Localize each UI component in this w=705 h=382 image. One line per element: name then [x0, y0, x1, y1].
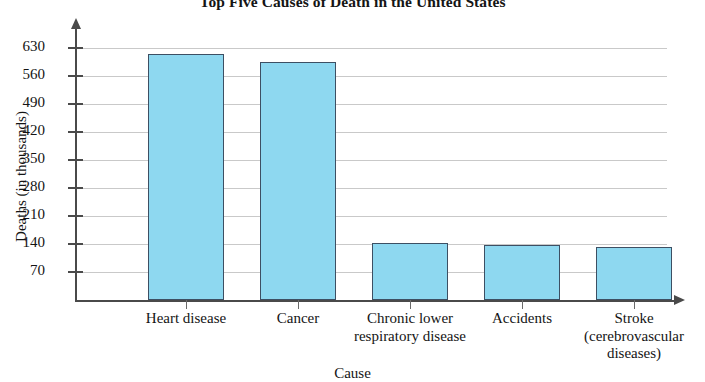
- x-axis-tick: [298, 300, 299, 309]
- bar: [596, 247, 672, 300]
- y-axis-tick-label: 140: [0, 234, 45, 251]
- y-axis-tick-label: 70: [0, 262, 45, 279]
- x-axis-tick: [522, 300, 523, 309]
- y-axis-tick-label: 560: [0, 66, 45, 83]
- x-axis-line: [75, 300, 675, 302]
- y-axis-tick-label: 350: [0, 150, 45, 167]
- plot-area: 70140210280350420490560630: [75, 27, 685, 300]
- y-axis-tick: [68, 103, 83, 105]
- y-axis-tick-label: 630: [0, 38, 45, 55]
- x-axis-category-line: (cerebrovascular: [554, 328, 705, 346]
- x-axis-category-line: Stroke: [554, 310, 705, 328]
- x-axis-tick: [634, 300, 635, 309]
- y-axis-tick: [68, 75, 83, 77]
- y-axis-tick: [68, 159, 83, 161]
- y-axis-tick-label: 420: [0, 122, 45, 139]
- y-axis-tick: [68, 271, 83, 273]
- x-axis-category-label: Stroke(cerebrovasculardiseases): [554, 310, 705, 363]
- gridline: [75, 48, 667, 49]
- y-axis-tick: [68, 131, 83, 133]
- x-axis-category-line: diseases): [554, 345, 705, 363]
- bar: [260, 62, 336, 300]
- x-axis-tick: [410, 300, 411, 309]
- x-axis-arrow-icon: [674, 295, 685, 305]
- y-axis-line: [75, 27, 77, 300]
- x-axis-label: Cause: [0, 365, 705, 382]
- y-axis-tick: [68, 243, 83, 245]
- bar: [372, 243, 448, 300]
- bar: [484, 245, 560, 300]
- chart-title: Top Five Causes of Death in the United S…: [0, 0, 705, 11]
- y-axis-tick-label: 210: [0, 206, 45, 223]
- y-axis-arrow-icon: [71, 18, 81, 29]
- bar: [148, 54, 224, 300]
- x-axis-category-line: respiratory disease: [330, 328, 490, 346]
- y-axis-tick: [68, 187, 83, 189]
- y-axis-tick: [68, 215, 83, 217]
- x-axis-tick: [186, 300, 187, 309]
- y-axis-tick-label: 280: [0, 178, 45, 195]
- y-axis-tick-label: 490: [0, 94, 45, 111]
- y-axis-tick: [68, 47, 83, 49]
